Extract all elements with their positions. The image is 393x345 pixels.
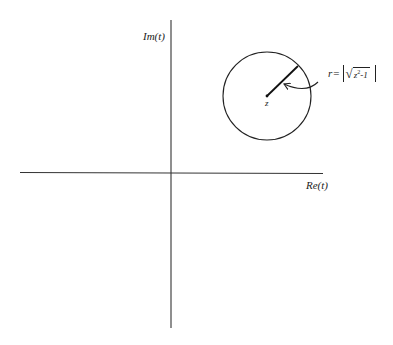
radicand-rest: -1: [360, 70, 368, 80]
imaginary-axis-label: Im(t): [143, 31, 165, 42]
point-z-label: z: [265, 99, 269, 108]
abs-bar-right: [375, 65, 376, 82]
radius-formula: r = √ z2-1: [328, 65, 378, 82]
equals-sign: =: [333, 68, 339, 79]
square-root: √ z2-1: [346, 67, 370, 80]
complex-plane-diagram: [0, 0, 393, 345]
radicand: z2-1: [353, 67, 370, 80]
radius-line: [267, 66, 298, 96]
curved-arrow-icon: [284, 82, 318, 89]
radius-symbol: r: [328, 68, 332, 79]
real-axis-label: Re(t): [306, 180, 328, 191]
center-point-z: [266, 95, 269, 98]
radical-sign-icon: √: [346, 67, 353, 80]
abs-bar-left: [343, 65, 344, 82]
